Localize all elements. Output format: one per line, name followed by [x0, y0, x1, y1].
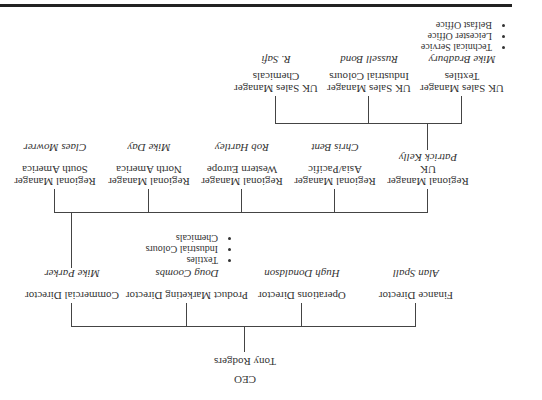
regional-region: Western Europe	[207, 164, 277, 176]
uk-sales-name: R. Safi	[261, 54, 290, 66]
top-rule	[0, 4, 512, 7]
uk-connector	[427, 124, 428, 150]
bullet: Leicester Office	[421, 31, 492, 42]
ceo-name: Tony Rodgers	[214, 356, 276, 368]
bullet: Industrial Colours	[146, 244, 219, 255]
commercial-connector	[71, 212, 72, 268]
bullet: Textiles	[146, 255, 219, 266]
regional-title: Regional Manager	[201, 176, 283, 188]
connector	[148, 189, 149, 213]
regional-name: Mike Day	[127, 142, 170, 154]
connector	[186, 303, 187, 327]
director-title: Finance Director	[379, 290, 453, 302]
director-name: Mike Parker	[44, 268, 99, 280]
ceo-title: CEO	[234, 374, 256, 386]
regional-name: Patrick Kelly	[399, 152, 457, 164]
connector	[368, 96, 369, 124]
connector	[71, 303, 72, 327]
connector	[427, 189, 428, 213]
product-bullets: Textiles Industrial Colours Chemicals	[146, 233, 231, 266]
ceo-connector	[244, 326, 245, 352]
director-name: Doug Coombs	[155, 268, 218, 280]
uk-textiles-bullets: Technical Service Leicester Office Belfa…	[421, 20, 504, 53]
connector	[415, 303, 416, 327]
connector	[461, 96, 462, 124]
uk-sales-name: Mike Bradbury	[429, 54, 496, 66]
regional-name: Chris Bent	[311, 142, 358, 154]
regional-title: Regional Manager	[387, 176, 469, 188]
regional-region: South America	[22, 164, 88, 176]
director-name: Alan Spall	[393, 268, 439, 280]
regional-title: Regional Manager	[14, 176, 96, 188]
regional-name: Claes Mowrer	[24, 142, 87, 154]
director-title: Commercial Director	[25, 290, 119, 302]
uk-sales-division: Chemicals	[253, 71, 299, 83]
uk-sales-division: Textiles	[445, 71, 480, 83]
regional-region: UK	[420, 164, 436, 176]
connector	[241, 189, 242, 213]
uk-sales-division: Industrial Colours	[329, 71, 409, 83]
bullet: Chemicals	[146, 233, 219, 244]
regional-title: Regional Manager	[108, 176, 190, 188]
connector	[275, 96, 276, 124]
director-title: Operations Director	[258, 290, 346, 302]
regional-region: North America	[116, 164, 182, 176]
bullet: Technical Service	[421, 42, 492, 53]
director-title: Product Marketing Director	[126, 290, 248, 302]
connector	[54, 189, 55, 213]
uk-sales-title: UK Sales Manager	[234, 83, 318, 95]
regional-title: Regional Manager	[294, 176, 376, 188]
org-chart: CEO Tony Rodgers Finance Director Alan S…	[0, 0, 542, 400]
directors-hline	[71, 326, 416, 327]
uk-sales-title: UK Sales Manager	[420, 83, 504, 95]
uk-sales-title: UK Sales Manager	[327, 83, 411, 95]
regional-name: Rob Hartley	[215, 142, 269, 154]
uk-hline	[276, 123, 462, 124]
uk-sales-name: Russell Bond	[340, 54, 398, 66]
regional-region: Asia/Pacific	[308, 164, 362, 176]
director-name: Hugh Donaldson	[264, 268, 339, 280]
connector	[334, 189, 335, 213]
connector	[301, 303, 302, 327]
bullet: Belfast Office	[421, 20, 492, 31]
